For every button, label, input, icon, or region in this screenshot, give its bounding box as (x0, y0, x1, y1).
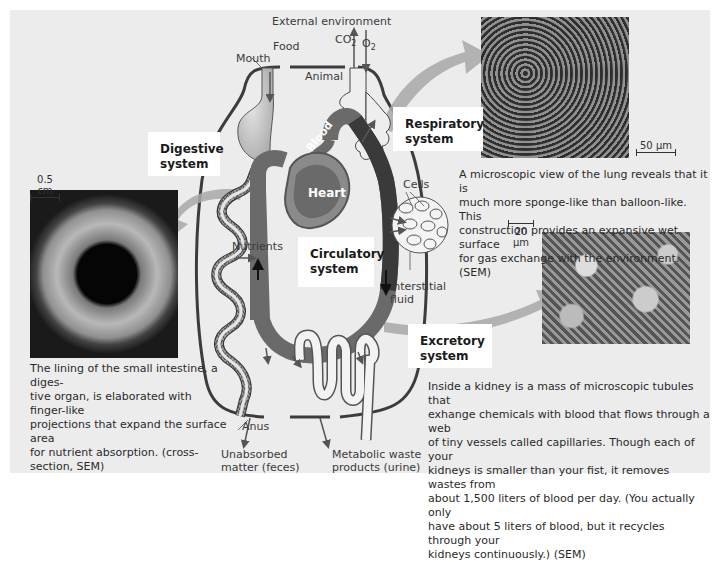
o2-label: O2 (362, 37, 376, 54)
circulatory-loop (258, 116, 391, 355)
circulatory-system-box: Circulatory system (298, 237, 374, 287)
animal-label: Animal (305, 70, 343, 83)
intestine-micrograph (30, 190, 178, 358)
co2-label: CO2 (335, 33, 356, 50)
intestine-caption: The lining of the small intestine, a dig… (30, 362, 230, 474)
metabolic-waste-label: Metabolic waste products (urine) (332, 448, 421, 474)
cells-circle (392, 197, 448, 253)
nutrients-label: Nutrients (232, 240, 283, 253)
interstitial-fluid-label: Interstitial fluid (390, 280, 446, 306)
food-label: Food (273, 40, 299, 53)
anus-label: Anus (242, 420, 269, 433)
mouth-label: Mouth (236, 52, 270, 65)
cells-label: Cells (403, 178, 429, 191)
urine-arrow (320, 418, 328, 446)
intestine-scale-bar: 0.5 cm (30, 174, 60, 198)
kidney-caption: Inside a kidney is a mass of microscopic… (428, 380, 710, 562)
lung-scale-bar: 50 µm (636, 140, 676, 153)
excretory-system-box: Excretory system (408, 324, 492, 368)
external-environment-label: External environment (272, 15, 391, 28)
lung-micrograph (481, 17, 629, 158)
lung-caption: A microscopic view of the lung reveals t… (459, 168, 709, 280)
heart-label: Heart (308, 187, 346, 200)
unabsorbed-matter-label: Unabsorbed matter (feces) (221, 448, 300, 474)
digestive-system-box: Digestive system (148, 132, 220, 176)
respiratory-system-box: Respiratory system (393, 107, 483, 151)
